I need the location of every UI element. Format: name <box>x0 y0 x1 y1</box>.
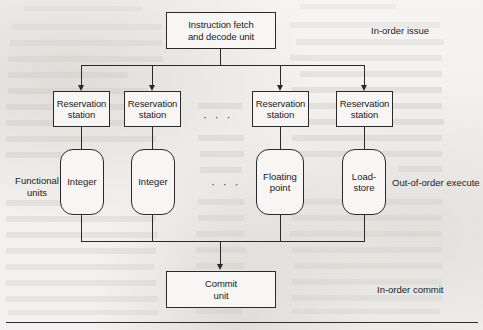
reservation-station-box-4: Reservation station <box>336 91 393 127</box>
stage-label-in-order-issue: In-order issue <box>371 25 429 37</box>
fetch-unit-line1: Instruction fetch <box>188 19 254 31</box>
rs-to-fu-line-3 <box>280 127 281 149</box>
reservation-station-2-line2: station <box>128 109 178 121</box>
functional-unit-1-line1: Integer <box>67 176 97 188</box>
functional-units-label-line1: Functional <box>6 175 68 187</box>
stage-label-out-of-order-execute: Out-of-order execute <box>392 177 480 189</box>
commit-unit-box: Commit unit <box>166 271 276 308</box>
reservation-station-4-line2: station <box>340 109 390 121</box>
functional-unit-floating-point: Floating point <box>256 149 304 215</box>
commit-unit-line2: unit <box>205 290 237 302</box>
commit-unit-line1: Commit <box>205 278 237 290</box>
issue-stem-line <box>220 49 221 66</box>
issue-drop-line-4 <box>364 65 365 86</box>
functional-unit-load-store: Load- store <box>342 149 386 215</box>
functional-unit-ellipsis: · · · <box>211 177 241 191</box>
commit-stem-line <box>220 241 221 265</box>
reservation-station-4-line1: Reservation <box>340 98 390 110</box>
scanned-figure-page: Instruction fetch and decode unit Reserv… <box>0 0 483 330</box>
instruction-fetch-decode-unit-box: Instruction fetch and decode unit <box>166 12 276 49</box>
functional-unit-2-line1: Integer <box>138 176 168 188</box>
fetch-unit-line2: and decode unit <box>188 31 254 43</box>
commit-arrowhead <box>217 264 223 270</box>
page-footer-rule <box>6 322 478 323</box>
functional-units-label: Functional units <box>6 175 68 198</box>
rs-to-fu-line-2 <box>152 127 153 149</box>
functional-unit-4-line2: store <box>352 182 376 194</box>
commit-bus-line <box>81 241 364 242</box>
functional-units-label-line2: units <box>6 187 68 199</box>
fu-to-commit-line-4 <box>364 215 365 242</box>
issue-drop-line-3 <box>280 65 281 86</box>
reservation-station-box-3: Reservation station <box>252 91 309 127</box>
issue-bus-line <box>81 65 364 66</box>
functional-unit-integer-2: Integer <box>131 149 175 215</box>
issue-drop-line-2 <box>152 65 153 86</box>
reservation-station-2-line1: Reservation <box>128 98 178 110</box>
fu-to-commit-line-3 <box>280 215 281 242</box>
reservation-station-1-line1: Reservation <box>57 98 107 110</box>
functional-unit-3-line1: Floating <box>263 171 297 183</box>
reservation-station-box-2: Reservation station <box>124 91 181 127</box>
issue-drop-line-1 <box>81 65 82 86</box>
reservation-station-ellipsis: · · · <box>203 110 233 124</box>
rs-to-fu-line-4 <box>364 127 365 149</box>
reservation-station-3-line1: Reservation <box>256 98 306 110</box>
reservation-station-box-1: Reservation station <box>53 91 110 127</box>
rs-to-fu-line-1 <box>81 127 82 149</box>
functional-unit-4-line1: Load- <box>352 171 376 183</box>
functional-unit-3-line2: point <box>263 182 297 194</box>
reservation-station-3-line2: station <box>256 109 306 121</box>
reservation-station-1-line2: station <box>57 109 107 121</box>
fu-to-commit-line-1 <box>81 215 82 242</box>
fu-to-commit-line-2 <box>152 215 153 242</box>
stage-label-in-order-commit: In-order commit <box>377 284 444 296</box>
